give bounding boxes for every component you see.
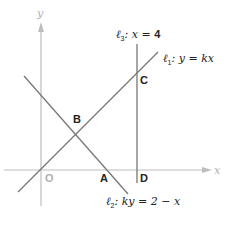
coordinate-diagram: x y O B C A D ℓ3: x = 4 ℓ1: y = kx ℓ2: k… — [0, 0, 228, 228]
point-c-label: C — [140, 74, 148, 86]
l2-equation-label: ℓ2: ky = 2 − x — [106, 195, 181, 209]
line-l2 — [24, 76, 128, 194]
origin-label: O — [45, 172, 54, 184]
point-a-label: A — [100, 172, 108, 184]
y-axis-arrow-icon — [38, 22, 44, 32]
l3-equation-label: ℓ3: x = 4 — [116, 28, 161, 42]
point-d-label: D — [140, 172, 148, 184]
x-axis-label: x — [214, 164, 221, 177]
x-axis-arrow-icon — [202, 167, 212, 173]
point-b-label: B — [73, 113, 81, 125]
y-axis-label: y — [36, 7, 44, 20]
y-axis — [38, 22, 44, 206]
l1-equation-label: ℓ1: y = kx — [163, 52, 215, 66]
